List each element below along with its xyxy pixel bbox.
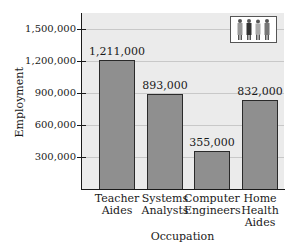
y-tick-label: 600,000 (35, 120, 76, 130)
x-axis-title: Occupation (81, 230, 284, 243)
y-tick (77, 61, 86, 62)
y-tick (77, 93, 86, 94)
bar-home-health-aides (242, 100, 278, 189)
bar-teacher-aides (99, 60, 135, 189)
y-tick-label: 1,200,000 (25, 56, 76, 66)
y-axis (81, 13, 82, 190)
value-label: 1,211,000 (87, 46, 147, 57)
y-tick-label: 300,000 (35, 152, 76, 162)
label-line: Aides (232, 217, 288, 229)
y-tick-label: 900,000 (35, 88, 76, 98)
people-icon (230, 16, 277, 43)
x-axis (81, 189, 285, 190)
y-tick-label: 1,500,000 (25, 24, 76, 34)
bar-systems-analysts (147, 94, 183, 189)
y-tick (77, 125, 86, 126)
y-tick (77, 157, 86, 158)
value-label: 355,000 (182, 137, 242, 148)
y-tick (77, 29, 86, 30)
value-label: 893,000 (135, 80, 195, 91)
value-label: 832,000 (230, 86, 290, 97)
x-category-label: Home Health Aides (232, 193, 288, 229)
y-axis-title: Employment (13, 68, 26, 138)
bar-computer-engineers (194, 151, 230, 189)
